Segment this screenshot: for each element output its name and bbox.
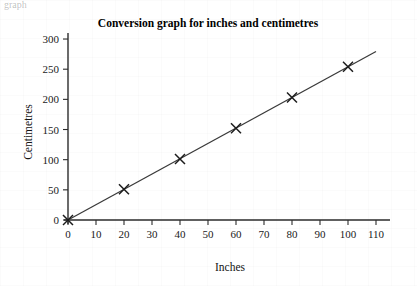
x-axis-ticks: 0102030405060708090100110 — [65, 220, 384, 240]
x-tick-label: 60 — [231, 228, 243, 240]
x-tick-label: 40 — [175, 228, 187, 240]
data-point-marker — [231, 123, 241, 133]
data-point-marker — [119, 184, 129, 194]
y-tick-label: 0 — [54, 214, 60, 226]
x-tick-label: 10 — [91, 228, 103, 240]
data-point-marker — [343, 62, 353, 72]
chart-title: Conversion graph for inches and centimet… — [98, 17, 319, 30]
conversion-line-chart: Conversion graph for inches and centimet… — [0, 0, 417, 286]
x-tick-label: 90 — [315, 228, 327, 240]
x-tick-label: 30 — [147, 228, 159, 240]
x-axis-label: Inches — [215, 261, 246, 273]
y-tick-label: 300 — [43, 33, 60, 45]
x-tick-label: 110 — [368, 228, 385, 240]
x-tick-label: 70 — [259, 228, 271, 240]
data-point-marker — [175, 154, 185, 164]
y-tick-label: 100 — [43, 154, 60, 166]
y-axis-ticks: 050100150200250300 — [43, 33, 69, 226]
y-tick-label: 50 — [48, 184, 60, 196]
x-tick-label: 0 — [65, 228, 71, 240]
y-tick-label: 250 — [43, 63, 60, 75]
y-tick-label: 200 — [43, 93, 60, 105]
chart-page: graph Conversion graph for inches and ce… — [0, 0, 417, 286]
y-tick-label: 150 — [43, 124, 60, 136]
x-tick-label: 20 — [119, 228, 131, 240]
x-tick-label: 50 — [203, 228, 215, 240]
data-point-marker — [287, 93, 297, 103]
x-tick-label: 80 — [287, 228, 299, 240]
x-tick-label: 100 — [340, 228, 357, 240]
series-line-path — [68, 51, 376, 220]
y-axis-label: Centimetres — [22, 104, 34, 160]
